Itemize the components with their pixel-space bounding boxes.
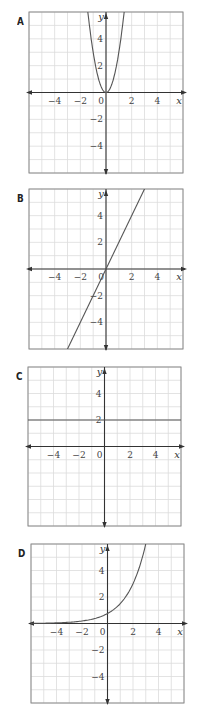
x-axis-label: x [177,626,183,637]
y-axis-label: y [99,543,106,554]
x-tick-label: 0 [100,627,106,637]
x-axis-arrow-right-icon [182,621,188,625]
x-tick-label: −4 [50,627,64,637]
x-tick-label: −2 [75,627,88,637]
y-axis-arrow-down-icon [105,699,109,705]
y-axis-arrow-up-icon [105,545,109,551]
y-tick-label: 2 [99,592,105,602]
graph-d-plot: −4−202442−2−4xy [0,0,201,714]
y-tick-label: 4 [99,566,105,576]
x-tick-label: 2 [130,627,136,637]
x-tick-label: 4 [156,627,162,637]
y-tick-label: −2 [91,645,104,655]
y-tick-label: −4 [91,672,105,682]
